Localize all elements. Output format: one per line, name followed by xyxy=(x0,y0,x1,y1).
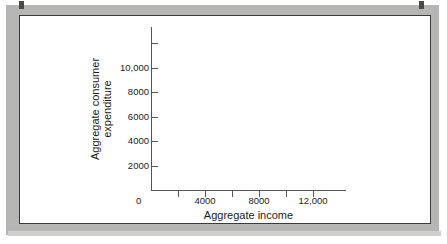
x-tick-label: 4000 xyxy=(194,196,215,206)
origin-tick-label: 0 xyxy=(136,195,141,206)
y-axis-title-line1: Aggregate consumer xyxy=(89,49,101,169)
y-tick-label: 4000 xyxy=(128,136,149,146)
y-axis-tick xyxy=(152,141,158,142)
y-axis-title-text: Aggregate consumer expenditure xyxy=(89,49,113,169)
x-tick-label: 8000 xyxy=(248,196,269,206)
x-axis-tick xyxy=(286,191,287,197)
corner-mark-top-left-icon xyxy=(19,1,24,9)
y-tick-label: 2000 xyxy=(128,161,149,171)
x-axis-line xyxy=(151,190,346,191)
x-axis-tick xyxy=(232,191,233,197)
y-axis-tick xyxy=(152,117,158,118)
y-axis-tick xyxy=(152,166,158,167)
corner-mark-top-right-icon xyxy=(419,1,424,9)
x-axis-tick xyxy=(178,191,179,197)
y-tick-label: 8000 xyxy=(128,87,149,97)
x-axis-title: Aggregate income xyxy=(151,209,346,221)
x-tick-label: 12,000 xyxy=(298,196,327,206)
y-axis-tick xyxy=(152,92,158,93)
y-axis-tick xyxy=(152,43,158,44)
y-tick-label: 10,000 xyxy=(120,63,149,73)
y-axis-tick xyxy=(152,68,158,69)
y-axis-title-line2: expenditure xyxy=(101,49,113,169)
figure-page: 10,000 8000 6000 4000 2000 0 4000 8000 1… xyxy=(0,0,447,244)
figure-frame-shadow xyxy=(8,231,441,236)
y-axis-title: Aggregate consumer expenditure xyxy=(63,57,77,177)
chart-plot-area: 10,000 8000 6000 4000 2000 0 4000 8000 1… xyxy=(19,15,431,224)
y-tick-label: 6000 xyxy=(128,112,149,122)
